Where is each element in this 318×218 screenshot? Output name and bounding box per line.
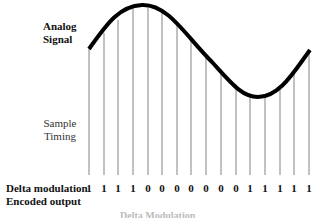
encoded-bit: 0 bbox=[203, 182, 209, 194]
encoded-output-label: Delta modulation Encoded output bbox=[6, 182, 88, 208]
analog-signal-label: Analog Signal bbox=[43, 20, 77, 46]
encoded-bit-row: 1111000000011111 bbox=[86, 182, 312, 194]
encoded-bit: 1 bbox=[291, 182, 297, 194]
encoded-bit: 0 bbox=[233, 182, 239, 194]
sample-label-line1: Sample bbox=[40, 117, 80, 130]
encoded-bit: 1 bbox=[277, 182, 283, 194]
encoded-bit: 1 bbox=[115, 182, 121, 194]
encoded-bit: 0 bbox=[159, 182, 165, 194]
encoded-bit: 0 bbox=[145, 182, 151, 194]
encoded-bit: 1 bbox=[262, 182, 268, 194]
encoded-bit: 1 bbox=[247, 182, 253, 194]
encoded-bit: 1 bbox=[306, 182, 312, 194]
encoded-bit: 0 bbox=[188, 182, 194, 194]
analog-label-line1: Analog bbox=[43, 20, 77, 33]
output-label-line1: Delta modulation bbox=[6, 182, 88, 195]
analog-signal-curve bbox=[89, 5, 310, 97]
sample-timing-label: Sample Timing bbox=[40, 117, 80, 143]
encoded-bit: 0 bbox=[218, 182, 224, 194]
encoded-bit: 0 bbox=[174, 182, 180, 194]
output-label-line2: Encoded output bbox=[6, 195, 88, 208]
analog-label-line2: Signal bbox=[43, 33, 77, 46]
figure-caption: Delta Modulation bbox=[120, 209, 195, 218]
sample-label-line2: Timing bbox=[40, 130, 80, 143]
encoded-bit: 1 bbox=[101, 182, 107, 194]
encoded-bit: 1 bbox=[130, 182, 136, 194]
